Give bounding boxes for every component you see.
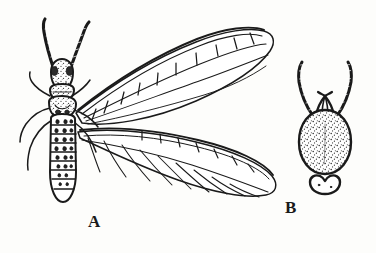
specimen-b-antennae [299, 62, 352, 116]
illustration-canvas [0, 0, 376, 253]
specimen-b-body [299, 110, 351, 174]
illustration-plate: A B [0, 0, 376, 253]
figure-label-b: B [285, 198, 297, 218]
specimen-b-lobed-appendage [310, 175, 340, 194]
abdomen [50, 114, 76, 202]
figure-label-a: A [88, 212, 101, 232]
hindwing [78, 128, 276, 197]
forewing [76, 28, 273, 124]
